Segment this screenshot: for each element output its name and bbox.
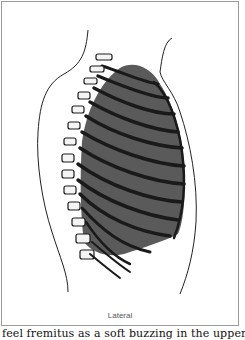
figure-frame: Lateral <box>1 1 239 326</box>
body-text-line: feel fremitus as a soft buzzing in the u… <box>2 327 245 340</box>
figure-caption: Lateral <box>2 311 238 320</box>
thorax-illustration <box>2 2 240 302</box>
